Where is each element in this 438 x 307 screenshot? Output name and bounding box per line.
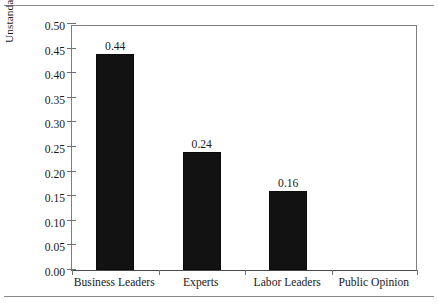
y-axis-tick-label: 0.50 [29,20,65,33]
y-axis-tick-label: 0.15 [29,192,65,205]
y-axis-tick-inner [72,244,76,245]
x-axis-category-label: Experts [183,276,218,289]
y-axis-title: Unstandardized OLS Regression Coefficien… [0,0,18,61]
y-axis-tick-label: 0.40 [29,69,65,82]
x-axis-category-label: Business Leaders [74,276,155,289]
y-axis-tick-inner [72,146,76,147]
x-axis-tick [72,270,73,275]
x-axis-category-label: Public Opinion [338,276,409,289]
x-axis-tick [159,270,160,275]
y-axis-tick-inner [72,121,76,122]
y-axis-tick-inner [72,97,76,98]
bar-value-label: 0.24 [192,138,212,151]
bar-experts[interactable] [183,152,221,270]
x-axis-tick [417,270,418,275]
figure-container: Unstandardized OLS Regression Coefficien… [0,0,438,307]
y-axis-tick-inner [72,220,76,221]
y-axis-tick-label: 0.45 [29,44,65,57]
x-axis-category-label: Labor Leaders [254,276,321,289]
plot-area: 0.000.050.100.150.200.250.300.350.400.45… [71,25,417,271]
y-axis-tick-label: 0.20 [29,167,65,180]
y-axis-tick-label: 0.25 [29,143,65,156]
bar-value-label: 0.44 [105,40,125,53]
y-axis-tick-label: 0.00 [29,266,65,279]
y-axis-tick-label: 0.10 [29,216,65,229]
y-axis-tick-inner [72,23,76,24]
y-axis-tick-inner [72,48,76,49]
bar-labor-leaders[interactable] [269,191,307,270]
bar-business-leaders[interactable] [96,54,134,270]
y-axis-tick-label: 0.05 [29,241,65,254]
figure-bottom-rule [4,296,434,297]
bar-value-label: 0.16 [278,177,298,190]
y-axis-tick-inner [72,171,76,172]
y-axis-tick-inner [72,195,76,196]
x-axis-tick [245,270,246,275]
y-axis-tick-label: 0.30 [29,118,65,131]
y-axis-tick-inner [72,72,76,73]
figure-top-rule [4,5,434,6]
x-axis-tick [332,270,333,275]
y-axis-tick-label: 0.35 [29,93,65,106]
